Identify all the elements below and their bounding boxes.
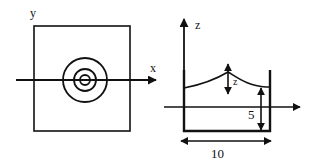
depth-label: 5 bbox=[248, 107, 255, 122]
diagram-canvas: y x z z 5 10 bbox=[0, 0, 318, 163]
width-label: 10 bbox=[211, 146, 224, 161]
y-axis-label: y bbox=[30, 6, 36, 20]
free-surface-curve bbox=[184, 72, 270, 88]
wave-elevation-label: z bbox=[233, 76, 238, 87]
square-boundary bbox=[34, 26, 130, 131]
z-axis-label: z bbox=[195, 18, 200, 32]
side-view-panel: z z 5 10 bbox=[164, 18, 300, 161]
top-view-panel: y x bbox=[16, 6, 156, 131]
x-axis-label: x bbox=[150, 61, 156, 75]
container-walls bbox=[184, 70, 270, 131]
